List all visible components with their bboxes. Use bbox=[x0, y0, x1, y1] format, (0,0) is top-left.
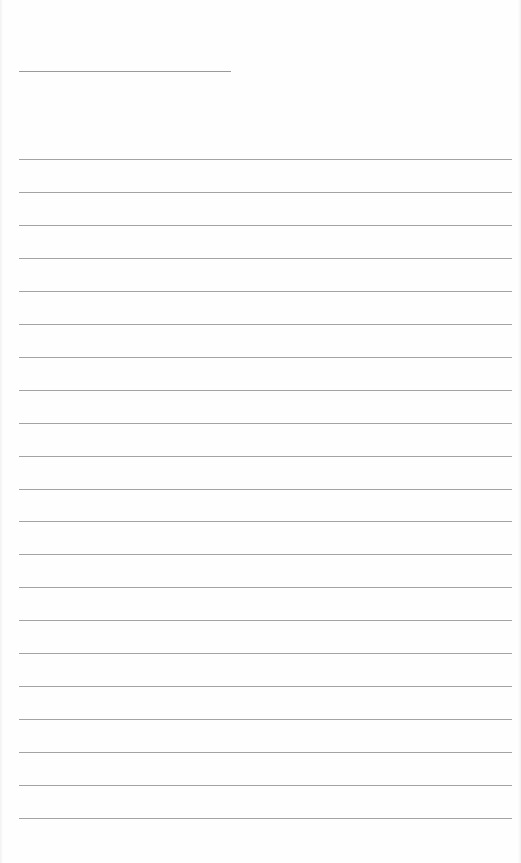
ruled-line bbox=[19, 423, 512, 424]
ruled-line bbox=[19, 192, 512, 193]
ruled-line bbox=[19, 489, 512, 490]
ruled-line bbox=[19, 225, 512, 226]
ruled-line bbox=[19, 159, 512, 160]
ruled-line bbox=[19, 554, 512, 555]
ruled-line bbox=[19, 752, 512, 753]
ruled-line bbox=[19, 390, 512, 391]
lined-paper-sheet bbox=[0, 0, 521, 863]
ruled-line bbox=[19, 785, 512, 786]
header-name-line bbox=[19, 71, 231, 72]
ruled-line bbox=[19, 291, 512, 292]
ruled-line bbox=[19, 521, 512, 522]
ruled-line bbox=[19, 456, 512, 457]
ruled-line bbox=[19, 653, 512, 654]
ruled-line bbox=[19, 357, 512, 358]
ruled-line bbox=[19, 324, 512, 325]
ruled-line bbox=[19, 818, 512, 819]
ruled-line bbox=[19, 686, 512, 687]
left-page-edge bbox=[0, 0, 3, 863]
ruled-line bbox=[19, 258, 512, 259]
ruled-line bbox=[19, 587, 512, 588]
ruled-line bbox=[19, 620, 512, 621]
ruled-line bbox=[19, 719, 512, 720]
